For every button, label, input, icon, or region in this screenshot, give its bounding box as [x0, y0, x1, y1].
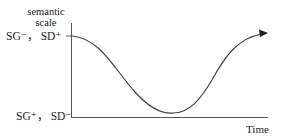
y-bottom-tick-label: SG⁺， SD⁻	[16, 111, 71, 122]
x-axis-label: Time	[246, 124, 269, 135]
semantic-wave-diagram: semantic scale SG⁻， SD⁺ SG⁺， SD⁻ Time	[0, 0, 284, 138]
y-axis-label-line1: semantic	[18, 6, 74, 17]
semantic-wave-curve	[72, 34, 262, 113]
y-axis-label: semantic scale	[18, 6, 74, 28]
y-axis-label-line2: scale	[18, 17, 74, 28]
y-top-tick-label: SG⁻， SD⁺	[6, 31, 61, 42]
arrowhead-icon	[259, 30, 268, 38]
